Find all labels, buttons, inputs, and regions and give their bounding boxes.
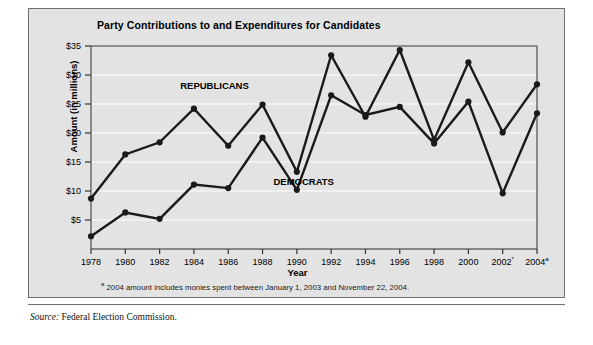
data-point [157, 139, 163, 145]
x-axis-tick-label: 2002* [492, 256, 515, 267]
data-point [88, 233, 94, 239]
y-axis-tick-label: $10 [66, 186, 81, 196]
source-line: Source: Federal Election Commission. [30, 312, 177, 322]
x-axis-tick-label: 1990 [287, 257, 307, 267]
data-point [500, 129, 506, 135]
source-divider [28, 304, 565, 305]
data-point [122, 209, 128, 215]
data-point [431, 140, 437, 146]
y-axis-tick-label: $35 [66, 41, 81, 51]
x-axis-tick-label: 1986 [218, 257, 238, 267]
data-point [465, 99, 471, 105]
data-point [225, 143, 231, 149]
data-point [397, 47, 403, 53]
y-axis-tick-label: $30 [66, 70, 81, 80]
data-point [328, 52, 334, 58]
data-point [191, 106, 197, 112]
data-point [328, 92, 334, 98]
data-point [157, 216, 163, 222]
series-label-republicans: REPUBLICANS [180, 80, 249, 91]
x-axis-tick-label: 1980 [115, 257, 135, 267]
footnote: a 2004 amount includes monies spent betw… [101, 281, 409, 292]
x-axis-tick-label: 1978 [81, 257, 101, 267]
line-chart-plot: $5$10$15$20$25$30$3519781980198219841986… [29, 9, 566, 269]
y-axis-tick-label: $5 [71, 215, 81, 225]
x-axis-tick-label: 1988 [253, 257, 273, 267]
data-point [500, 190, 506, 196]
data-point [465, 59, 471, 65]
x-axis-tick-label: 1982 [150, 257, 170, 267]
data-point [225, 185, 231, 191]
x-axis-tick-label: 1994 [355, 257, 375, 267]
y-axis-tick-label: $25 [66, 99, 81, 109]
data-point [534, 110, 540, 116]
data-point [534, 81, 540, 87]
data-point [294, 187, 300, 193]
data-point [259, 135, 265, 141]
data-point [88, 195, 94, 201]
source-text: Federal Election Commission. [59, 312, 177, 322]
footnote-text: 2004 amount includes monies spent betwee… [104, 283, 409, 292]
data-point [191, 182, 197, 188]
data-point [294, 169, 300, 175]
x-axis-tick-label: 2004a [525, 256, 549, 267]
x-axis-tick-label: 1992 [321, 257, 341, 267]
data-point [122, 151, 128, 157]
y-axis-tick-label: $20 [66, 128, 81, 138]
x-axis-tick-label: 1996 [390, 257, 410, 267]
x-axis-tick-label: 2000 [458, 257, 478, 267]
x-axis-tick-label: 1998 [424, 257, 444, 267]
figure-panel: Party Contributions to and Expenditures … [28, 8, 565, 298]
data-point [397, 104, 403, 110]
data-point [362, 112, 368, 118]
x-axis-tick-label: 1984 [184, 257, 204, 267]
source-label: Source: [30, 312, 59, 322]
y-axis-tick-label: $15 [66, 157, 81, 167]
series-label-democrats: DEMOCRATS [273, 176, 334, 187]
data-point [259, 101, 265, 107]
